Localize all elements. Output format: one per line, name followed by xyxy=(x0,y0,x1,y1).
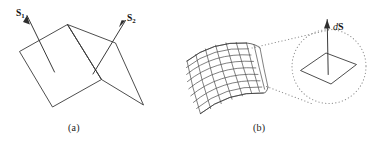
vector-label-s2: S2 xyxy=(127,14,136,25)
vector-label-s1: S1 xyxy=(16,9,25,20)
panel-a-graphic xyxy=(0,0,184,145)
vector-label-s1-subscript: 1 xyxy=(21,12,24,19)
curved-mesh-surface xyxy=(186,42,268,113)
vector-label-ds: dS xyxy=(333,22,344,32)
caption-panel-a: (a) xyxy=(68,122,80,133)
caption-panel-b: (b) xyxy=(253,122,265,133)
magnifier-leader-lower xyxy=(267,87,315,105)
vector-label-ds-symbol: S xyxy=(338,21,344,32)
figure-container: S1 S2 (a) xyxy=(0,0,368,145)
normal-vector-ds-arrowhead xyxy=(324,20,330,29)
magnifier-leader-upper xyxy=(252,30,331,49)
vector-label-s2-subscript: 2 xyxy=(132,17,135,24)
